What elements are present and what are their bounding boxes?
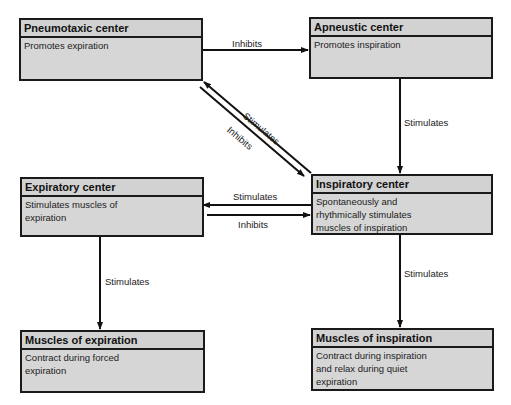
- arrow-pneumotaxic-to-inspiratory: [200, 87, 304, 176]
- edge-label-stimulates-inspiratory: Stimulates: [404, 117, 448, 128]
- apneustic-center-node: Apneustic center Promotes inspiration: [309, 17, 493, 79]
- node-title: Expiratory center: [22, 179, 202, 197]
- node-description: Promotes inspiration: [311, 37, 491, 52]
- node-description: Contract during forced expiration: [22, 350, 203, 378]
- edge-label-stimulates-muscles-inspiration: Stimulates: [404, 268, 448, 279]
- node-title: Muscles of inspiration: [313, 330, 492, 348]
- edge-label-inhibits-apneustic: Inhibits: [232, 38, 262, 49]
- node-title: Pneumotaxic center: [21, 20, 201, 38]
- expiratory-center-node: Expiratory center Stimulates muscles of …: [20, 177, 204, 237]
- node-description: Stimulates muscles of expiration: [22, 197, 202, 225]
- inspiratory-center-node: Inspiratory center Spontaneously and rhy…: [311, 174, 493, 235]
- node-title: Apneustic center: [311, 19, 491, 37]
- muscles-of-inspiration-node: Muscles of inspiration Contract during i…: [311, 328, 494, 391]
- node-title: Inspiratory center: [313, 176, 491, 194]
- node-description: Promotes expiration: [21, 38, 201, 53]
- pneumotaxic-center-node: Pneumotaxic center Promotes expiration: [19, 18, 203, 81]
- edge-label-stimulates-expiratory: Stimulates: [233, 191, 277, 202]
- edge-label-inhibits-inspiratory-2: Inhibits: [238, 219, 268, 230]
- muscles-of-expiration-node: Muscles of expiration Contract during fo…: [20, 330, 205, 393]
- node-description: Spontaneously and rhythmically stimulate…: [313, 194, 491, 235]
- edge-label-stimulates-muscles-expiration: Stimulates: [105, 276, 149, 287]
- node-description: Contract during inspiration and relax du…: [313, 348, 492, 389]
- node-title: Muscles of expiration: [22, 332, 203, 350]
